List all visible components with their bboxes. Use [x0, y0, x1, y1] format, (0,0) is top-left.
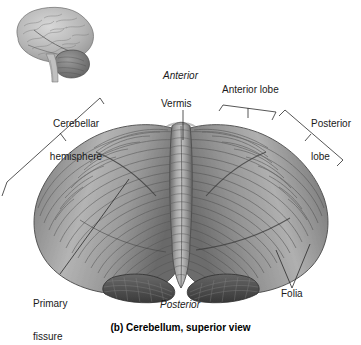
cerebellum-figure: Anterior Posterior Cerebellar hemisphere…	[0, 0, 361, 345]
leader-anterior-lobe-bracket	[219, 105, 276, 120]
label-cerebellar-hemisphere: Cerebellar hemisphere	[34, 96, 118, 184]
label-vermis: Vermis	[161, 98, 192, 109]
orientation-label-posterior: Posterior	[160, 299, 200, 310]
label-primary-fissure: Primary fissure	[33, 276, 93, 345]
orientation-label-anterior: Anterior	[163, 70, 198, 81]
label-cerebellar-hemisphere-line1: Cerebellar	[34, 118, 118, 129]
inset-cerebellum	[54, 50, 89, 78]
label-folia: Folia	[281, 288, 303, 299]
right-cerebellar-hemisphere	[182, 125, 328, 295]
label-cerebellar-hemisphere-line2: hemisphere	[34, 151, 118, 162]
label-anterior-lobe: Anterior lobe	[222, 84, 279, 95]
figure-caption: (b) Cerebellum, superior view	[0, 322, 361, 333]
label-posterior-lobe: Posterior lobe	[311, 96, 359, 184]
label-posterior-lobe-line2: lobe	[311, 151, 359, 162]
label-primary-fissure-line1: Primary	[33, 298, 93, 309]
label-posterior-lobe-line1: Posterior	[311, 118, 359, 129]
brain-lateral-inset	[17, 7, 94, 82]
